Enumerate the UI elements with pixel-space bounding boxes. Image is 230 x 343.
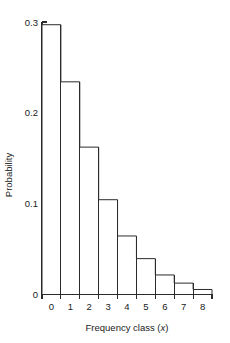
x-tick-label-2: 2 bbox=[87, 301, 92, 312]
x-axis-title-prefix: Frequency class ( bbox=[86, 322, 162, 333]
x-axis-title: Frequency class (x) bbox=[86, 322, 169, 333]
x-tick-label-4: 4 bbox=[124, 301, 129, 312]
chart-figure: Probability 0.3 0.2 0.1 0 012345678 Freq… bbox=[0, 0, 230, 343]
y-tick-label-3: 0.3 bbox=[25, 17, 38, 28]
x-tick-label-6: 6 bbox=[162, 301, 167, 312]
bars-group bbox=[42, 25, 212, 294]
x-tick-label-3: 3 bbox=[105, 301, 110, 312]
x-axis-ticks: 012345678 bbox=[42, 294, 212, 312]
x-tick-label-5: 5 bbox=[143, 301, 148, 312]
x-tick-label-7: 7 bbox=[181, 301, 186, 312]
y-tick-label-0: 0 bbox=[33, 289, 38, 300]
probability-histogram: Probability 0.3 0.2 0.1 0 012345678 Freq… bbox=[0, 0, 230, 343]
x-tick-label-1: 1 bbox=[68, 301, 73, 312]
x-axis-title-suffix: ) bbox=[165, 322, 168, 333]
y-tick-label-1: 0.1 bbox=[25, 198, 38, 209]
y-axis-title: Probability bbox=[3, 153, 14, 198]
x-tick-label-0: 0 bbox=[49, 301, 54, 312]
y-tick-label-2: 0.2 bbox=[25, 107, 38, 118]
histogram-outline bbox=[42, 25, 212, 294]
x-tick-label-8: 8 bbox=[200, 301, 205, 312]
